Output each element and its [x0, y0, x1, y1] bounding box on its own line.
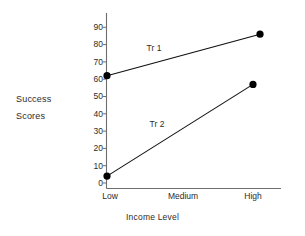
x-tick-high: High: [244, 191, 261, 201]
series-tr2-point-low: [103, 173, 110, 180]
series-label-tr2: Tr 2: [150, 119, 165, 129]
series-tr2-line: [107, 84, 253, 176]
series-tr1-point-high: [256, 31, 263, 38]
chart-figure: Success Scores 90 80 70 60 50 40 30 20 1…: [0, 0, 305, 236]
series-label-tr1: Tr 1: [147, 43, 162, 53]
x-tick-medium: Medium: [168, 191, 198, 201]
series-tr2: [103, 81, 256, 180]
x-tick-low: Low: [102, 191, 118, 201]
series-tr1-point-low: [103, 72, 110, 79]
series-tr1-line: [107, 34, 260, 75]
x-axis-title: Income Level: [0, 212, 305, 222]
series-tr1: [103, 31, 263, 80]
series-tr2-point-high: [249, 81, 256, 88]
